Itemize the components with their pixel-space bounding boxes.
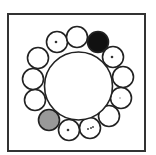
circle-mark <box>92 126 94 128</box>
circle-mark <box>119 97 121 99</box>
small-circle-6 <box>111 88 132 109</box>
circle-ring-diagram <box>0 0 156 155</box>
small-circle-13 <box>28 48 49 69</box>
small-circle-5 <box>113 67 134 88</box>
circle-mark <box>90 127 92 129</box>
circle-mark <box>87 128 89 130</box>
small-circle-11 <box>25 90 46 111</box>
small-circle-2 <box>67 27 88 48</box>
circle-mark <box>67 129 70 132</box>
small-circle-12 <box>23 69 44 90</box>
circle-mark <box>111 56 114 59</box>
center-circle <box>45 52 113 120</box>
circle-mark <box>55 41 58 44</box>
